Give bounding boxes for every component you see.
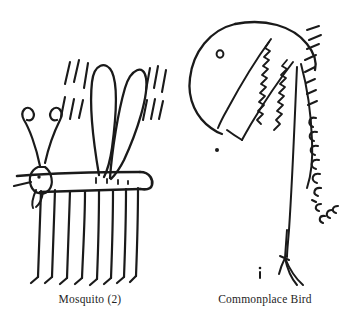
illustration-plate: Mosquito (2)	[0, 0, 355, 326]
head	[30, 167, 52, 193]
antenna-left	[22, 108, 40, 166]
proboscis	[14, 182, 31, 186]
beak-tip	[227, 130, 242, 140]
mosquito-drawing	[0, 0, 180, 290]
neck-front-line	[287, 67, 297, 257]
eye-icon	[217, 50, 224, 58]
legs	[45, 188, 138, 285]
head-whisker-1	[32, 190, 36, 208]
antenna-right	[45, 108, 62, 163]
ground-dot-icon	[259, 267, 262, 270]
figure-caption-bird: Commonplace Bird	[175, 293, 355, 305]
neck-feather-ticks	[305, 26, 321, 105]
figure-mosquito: Mosquito (2)	[0, 0, 180, 326]
motion-lines-left-icon	[61, 60, 88, 119]
toes	[279, 256, 303, 285]
teeth-lower-row	[274, 60, 287, 130]
figure-commonplace-bird: Commonplace Bird	[175, 0, 355, 326]
body-top-line	[17, 172, 140, 176]
figure-caption-mosquito: Mosquito (2)	[0, 293, 180, 305]
lower-jaw-line	[242, 62, 293, 140]
eye-dot-icon	[37, 175, 40, 178]
teeth-upper-row	[257, 42, 270, 124]
bird-drawing	[175, 0, 355, 290]
head-dome	[189, 24, 235, 134]
chin-dot-icon	[215, 148, 219, 152]
head-crown	[235, 22, 316, 70]
body-cap	[140, 172, 152, 189]
neck-feather-curls-lower	[312, 200, 338, 223]
